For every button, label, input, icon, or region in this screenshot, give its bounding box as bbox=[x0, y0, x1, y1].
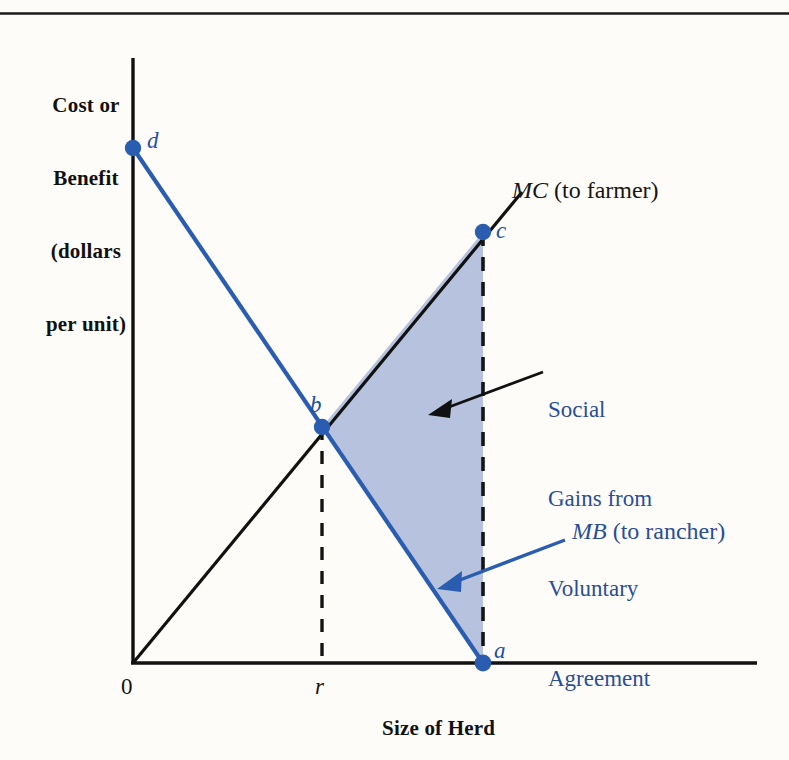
mc-qualifier: (to farmer) bbox=[548, 177, 659, 203]
y-axis-title-line-3: (dollars bbox=[34, 239, 138, 263]
point-label-d: d bbox=[147, 128, 159, 155]
y-axis-title: Cost or Benefit (dollars per unit) bbox=[34, 44, 138, 385]
social-gains-shaded-region bbox=[322, 232, 483, 663]
point-label-b: b bbox=[310, 392, 322, 419]
point-dot-c bbox=[475, 224, 491, 240]
x-axis-title: Size of Herd bbox=[382, 716, 495, 740]
social-gains-line-3: Voluntary bbox=[548, 574, 652, 604]
mc-symbol: MC bbox=[512, 177, 548, 203]
social-gains-line-2: Gains from bbox=[548, 484, 652, 514]
origin-label: 0 bbox=[121, 674, 133, 701]
y-axis-title-line-4: per unit) bbox=[34, 312, 138, 336]
y-axis-title-line-2: Benefit bbox=[34, 166, 138, 190]
figure-page: Cost or Benefit (dollars per unit) Size … bbox=[0, 0, 789, 760]
social-gains-line-4: Agreement bbox=[548, 664, 652, 694]
point-dot-a bbox=[475, 655, 492, 672]
mc-curve-label: MC (to farmer) bbox=[512, 177, 659, 205]
social-gains-annotation: Social Gains from Voluntary Agreement bbox=[548, 335, 652, 753]
y-axis-title-line-1: Cost or bbox=[34, 93, 138, 117]
social-gains-line-1: Social bbox=[548, 395, 652, 425]
point-label-a: a bbox=[494, 638, 506, 665]
point-dot-b bbox=[314, 419, 330, 435]
x-tick-label-r: r bbox=[315, 674, 324, 701]
point-label-c: c bbox=[496, 218, 506, 245]
